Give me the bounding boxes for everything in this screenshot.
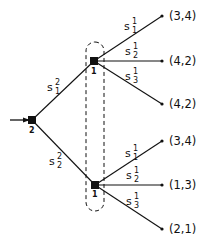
svg-text:2: 2	[57, 152, 62, 161]
payoff-lower-3: (2,1)	[169, 222, 196, 236]
svg-text:1: 1	[133, 144, 138, 153]
svg-text:1: 1	[133, 153, 138, 162]
svg-text:2: 2	[57, 161, 62, 170]
terminal-dot	[160, 102, 163, 105]
edge-label-root-1: s 2 1	[47, 78, 60, 96]
svg-text:s: s	[47, 81, 53, 94]
edge-label-root-2: s 2 2	[49, 152, 62, 170]
payoff-upper-1: (3,4)	[169, 9, 196, 23]
edge-label-upper-2: s 1 2	[125, 42, 138, 60]
svg-text:s: s	[126, 195, 132, 208]
svg-text:s: s	[124, 20, 130, 33]
svg-text:s: s	[125, 45, 131, 58]
terminal-dot	[160, 227, 163, 230]
edge-label-lower-1: s 1 1	[125, 144, 138, 162]
svg-text:1: 1	[133, 42, 138, 51]
svg-text:1: 1	[133, 67, 138, 76]
svg-text:3: 3	[134, 201, 139, 210]
edge-label-lower-2: s 1 2	[126, 166, 139, 184]
svg-text:1: 1	[134, 192, 139, 201]
svg-text:1: 1	[132, 17, 137, 26]
lower-node	[91, 181, 99, 189]
terminal-dot	[160, 14, 163, 17]
upper-node	[90, 57, 98, 65]
svg-text:2: 2	[134, 175, 139, 184]
payoff-lower-1: (3,4)	[169, 134, 196, 148]
edge-root-upper	[32, 61, 94, 120]
terminal-dot	[160, 59, 163, 62]
svg-text:1: 1	[134, 166, 139, 175]
svg-text:s: s	[125, 147, 131, 160]
payoff-upper-3: (4,2)	[169, 97, 196, 111]
svg-text:s: s	[126, 169, 132, 182]
root-node	[28, 116, 36, 124]
svg-text:3: 3	[133, 76, 138, 85]
root-node-player: 2	[29, 126, 35, 135]
terminal-dot	[160, 183, 163, 186]
lower-node-player: 1	[92, 190, 98, 199]
edge-label-lower-3: s 1 3	[126, 192, 139, 210]
edge-label-upper-3: s 1 3	[125, 67, 138, 85]
svg-text:2: 2	[133, 51, 138, 60]
game-tree-diagram: 2 1 1 s 2 1 s 2 2 s 1 1 s 1 2 s 1 3 s 1 …	[0, 0, 208, 245]
payoff-upper-2: (4,2)	[169, 54, 196, 68]
terminal-dot	[160, 139, 163, 142]
payoff-lower-2: (1,3)	[169, 178, 196, 192]
svg-text:1: 1	[132, 26, 137, 35]
svg-text:s: s	[49, 155, 55, 168]
svg-text:2: 2	[55, 78, 60, 87]
upper-node-player: 1	[91, 67, 97, 76]
edge-label-upper-1: s 1 1	[124, 17, 137, 35]
svg-text:s: s	[125, 70, 131, 83]
svg-text:1: 1	[55, 87, 60, 96]
